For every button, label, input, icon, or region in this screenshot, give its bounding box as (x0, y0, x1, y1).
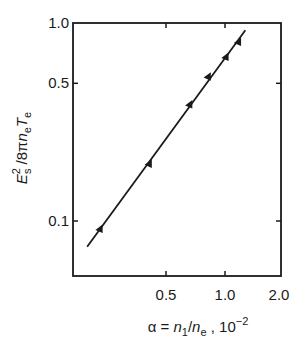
y-tick-label: 0.1 (48, 212, 69, 229)
tick-labels: 0.51.02.00.10.51.0 (48, 14, 289, 303)
triangle-marker (221, 52, 228, 61)
plot-frame (73, 23, 281, 276)
x-tick-label: 0.5 (156, 286, 177, 303)
x-axis-label: α = n1/ne , 10−2 (148, 315, 249, 338)
axis-ticks (73, 23, 281, 276)
y-axis-label: E2s /8πneTe (10, 112, 33, 184)
chart: 0.51.02.00.10.51.0 α = n1/ne , 10−2 E2s … (0, 0, 302, 346)
y-tick-label: 1.0 (48, 14, 69, 31)
x-tick-label: 2.0 (269, 286, 290, 303)
y-tick-label: 0.5 (48, 74, 69, 91)
triangle-marker (204, 72, 211, 81)
data-series (87, 30, 245, 247)
x-tick-label: 1.0 (215, 286, 236, 303)
fit-line (87, 30, 245, 247)
